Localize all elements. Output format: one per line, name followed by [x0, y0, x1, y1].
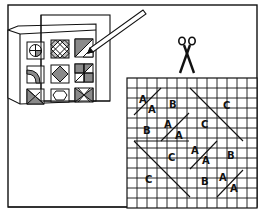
piece-label: B: [227, 150, 235, 161]
tile-hourglass: [75, 88, 93, 102]
tile-four-patch-triangles: [75, 64, 93, 82]
piece-label: C: [145, 174, 152, 185]
scissors-icon: [179, 37, 195, 73]
piece-label: A: [219, 172, 227, 183]
piece-label: C: [201, 119, 208, 130]
tile-grid: [27, 39, 93, 104]
piece-label: B: [201, 176, 209, 187]
tile-lattice-diamonds: [51, 40, 69, 58]
piece-label: A: [164, 119, 172, 130]
piece-label: A: [191, 145, 199, 156]
piece-label: C: [168, 152, 175, 163]
piece-label: B: [143, 125, 151, 136]
piece-label: A: [230, 183, 238, 194]
piece-label: C: [223, 100, 230, 111]
tile-octagon: [51, 89, 69, 102]
piece-label: A: [202, 155, 210, 166]
piece-label: A: [139, 94, 147, 105]
pencil-icon: [88, 10, 146, 53]
piece-label: B: [169, 99, 177, 110]
tile-center-diamond: [51, 65, 69, 83]
piece-label: A: [148, 104, 156, 115]
quilt-illustration: A A B C B A A C C A A B C B A A: [0, 0, 264, 213]
piece-label: A: [175, 130, 183, 141]
